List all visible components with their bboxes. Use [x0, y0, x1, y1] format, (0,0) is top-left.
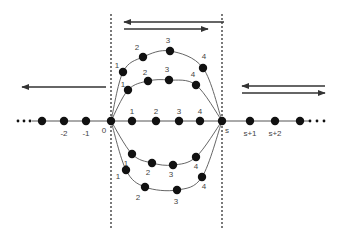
ellipsis-dot: [29, 120, 32, 123]
axis-node: [218, 117, 226, 125]
path-curve: [111, 51, 222, 121]
path-curve: [111, 80, 222, 121]
path-node: [192, 81, 200, 89]
path-node-label: 4: [202, 52, 207, 61]
path-node-label: 2: [146, 168, 151, 177]
path-node-label: 1: [116, 172, 121, 181]
lattice-path-diagram: 1234123412341234 -2-101234ss+1s+2: [0, 0, 341, 242]
axis-node-label: -1: [82, 129, 90, 138]
path-node: [169, 161, 177, 169]
axis-node: [152, 117, 160, 125]
direction-arrows: [22, 22, 325, 93]
path-node-label: 4: [202, 182, 207, 191]
axis-node-label: 3: [177, 107, 182, 116]
axis-node: [246, 117, 254, 125]
axis-node-label: s+2: [268, 129, 282, 138]
path-node-label: 4: [191, 70, 196, 79]
path-node: [128, 150, 136, 158]
axis-node-label: s: [225, 126, 229, 135]
path-node-label: 2: [135, 43, 140, 52]
path-node-label: 2: [143, 68, 148, 77]
path-node-label: 3: [169, 170, 174, 179]
axis-node: [82, 117, 90, 125]
path-node-label: 3: [166, 36, 171, 45]
path-node: [192, 153, 200, 161]
path-node: [165, 76, 173, 84]
path-node-label: 1: [115, 61, 120, 70]
path-node: [199, 64, 207, 72]
path-node: [173, 186, 181, 194]
axis-node-label: 4: [198, 107, 203, 116]
path-node-label: 3: [165, 65, 170, 74]
path-node: [119, 68, 127, 76]
path-node-label: 4: [194, 162, 199, 171]
axis-node-label: -2: [60, 129, 68, 138]
axis-node: [175, 117, 183, 125]
path-curve: [111, 121, 222, 191]
axis-node-label: 0: [102, 126, 107, 135]
path-node: [148, 159, 156, 167]
axis-node: [271, 117, 279, 125]
number-line: [17, 117, 326, 125]
path-node: [166, 47, 174, 55]
boundary-dashed-lines: [111, 14, 222, 230]
ellipsis-dot: [17, 120, 20, 123]
ellipsis-dot: [309, 120, 312, 123]
axis-node: [296, 117, 304, 125]
path-node-label: 3: [174, 197, 179, 206]
path-node: [141, 183, 149, 191]
path-node: [122, 166, 130, 174]
axis-node-label: 2: [154, 107, 159, 116]
axis-node: [107, 117, 115, 125]
path-node: [198, 173, 206, 181]
ellipsis-dot: [316, 120, 319, 123]
axis-node: [60, 117, 68, 125]
ellipsis-dot: [23, 120, 26, 123]
path-node-label: 1: [121, 80, 126, 89]
axis-node: [38, 117, 46, 125]
axis-node-label: s+1: [243, 129, 257, 138]
axis-node-label: 1: [130, 107, 135, 116]
path-node-label: 2: [136, 193, 141, 202]
path-node: [144, 77, 152, 85]
inner-top-path: 1234: [111, 65, 222, 121]
axis-node: [128, 117, 136, 125]
axis-node: [196, 117, 204, 125]
ellipsis-dot: [323, 120, 326, 123]
path-node: [139, 53, 147, 61]
